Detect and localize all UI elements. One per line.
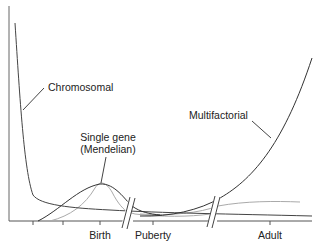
- x-tick-label-puberty: Puberty: [128, 229, 178, 241]
- multifactorial-leader: [252, 121, 271, 138]
- single-gene-label-line2: (Mendelian): [78, 143, 138, 155]
- single-gene-label: Single gene (Mendelian): [78, 131, 138, 155]
- axis-break-2: [207, 194, 221, 228]
- x-tick-label-birth: Birth: [80, 229, 120, 241]
- chart-canvas: [0, 0, 321, 246]
- chromosomal-leader: [23, 88, 44, 110]
- single-gene-label-line1: Single gene: [78, 131, 138, 143]
- single-gene-curve: [38, 184, 160, 221]
- single-gene-leader: [101, 157, 106, 183]
- axis-break-1: [121, 196, 135, 229]
- x-tick-label-adult: Adult: [250, 229, 290, 241]
- chromosomal-label: Chromosomal: [48, 81, 113, 93]
- x-ticks: [33, 221, 270, 225]
- chromosomal-curve: [15, 23, 312, 216]
- multifactorial-label: Multifactorial: [189, 109, 248, 121]
- multifactorial-curve: [140, 58, 312, 216]
